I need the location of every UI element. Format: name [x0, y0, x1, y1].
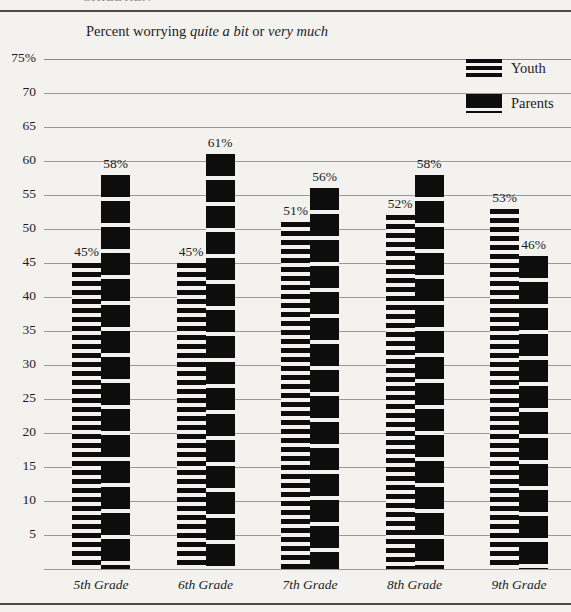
y-axis-tick-label: 50 [0, 220, 36, 236]
y-axis-tick-label: 35 [0, 322, 36, 338]
bar-value-label: 61% [197, 135, 243, 151]
bar-value-label: 56% [302, 169, 348, 185]
x-axis-label-5th-grade: 5th Grade [51, 577, 151, 593]
y-axis-tick-label: 5 [0, 526, 36, 542]
bar-parents-9th-grade [519, 256, 548, 569]
chart-legend: YouthParents [466, 55, 566, 125]
bar-parents-6th-grade [206, 154, 235, 569]
x-axis-label-7th-grade: 7th Grade [260, 577, 360, 593]
bar-youth-8th-grade [386, 215, 415, 569]
y-axis-tick-label: 15 [0, 458, 36, 474]
y-axis-tick-label: 30 [0, 356, 36, 372]
y-axis-tick-label: 60 [0, 152, 36, 168]
bar-youth-7th-grade [281, 222, 310, 569]
bar-youth-9th-grade [490, 209, 519, 569]
x-axis-label-9th-grade: 9th Grade [469, 577, 569, 593]
y-axis-tick-label: 40 [0, 288, 36, 304]
bar-value-label: 46% [511, 237, 557, 253]
y-axis-tick-label: 65 [0, 118, 36, 134]
gridline [44, 127, 571, 128]
y-axis-tick-label: 55 [0, 186, 36, 202]
y-axis-tick-label: 45 [0, 254, 36, 270]
y-axis-tick-label: 25 [0, 390, 36, 406]
y-axis-tick-label: 75% [0, 50, 36, 66]
legend-swatch-parents-icon [466, 94, 502, 113]
bar-value-label: 58% [93, 156, 139, 172]
y-axis-tick-label: 20 [0, 424, 36, 440]
bar-parents-5th-grade [101, 175, 130, 569]
bar-parents-7th-grade [310, 188, 339, 569]
legend-item-youth: Youth [466, 55, 566, 81]
legend-swatch-youth-icon [466, 59, 502, 78]
bar-youth-6th-grade [177, 263, 206, 569]
bar-value-label: 58% [406, 156, 452, 172]
x-axis-label-6th-grade: 6th Grade [156, 577, 256, 593]
legend-label: Parents [511, 95, 554, 112]
x-axis-label-8th-grade: 8th Grade [365, 577, 465, 593]
y-axis-tick-label: 70 [0, 84, 36, 100]
legend-item-parents: Parents [466, 90, 566, 116]
y-axis-tick-label: 10 [0, 492, 36, 508]
bar-youth-5th-grade [72, 263, 101, 569]
bar-value-label: 53% [482, 190, 528, 206]
bar-parents-8th-grade [415, 175, 444, 569]
legend-label: Youth [511, 60, 546, 77]
x-axis-baseline [44, 569, 571, 570]
